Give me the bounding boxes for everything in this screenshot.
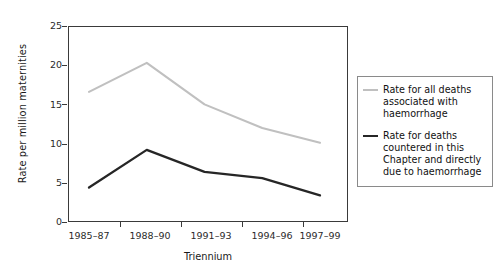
y-tick-mark [62,183,67,184]
y-tick-label: 10 [40,139,62,149]
y-tick-mark [62,104,67,105]
y-axis-title: Rate per million maternities [17,29,28,199]
legend-swatch-light-icon [363,89,378,91]
legend: Rate for all deaths associated with haem… [357,76,493,187]
legend-entry-label: Rate for all deaths associated with haem… [383,84,486,121]
y-tick-mark [62,144,67,145]
x-tick-mark [303,222,304,227]
x-tick-label: 1991–93 [176,230,246,241]
x-tick-label: 1985–87 [54,230,124,241]
x-axis-title: Triennium [68,251,348,262]
y-tick-label: 0 [40,217,62,227]
x-tick-label: 1988–90 [115,230,185,241]
y-tick-mark [62,65,67,66]
legend-entry: Rate for all deaths associated with haem… [363,84,486,121]
legend-swatch-dark-icon [363,135,378,137]
x-tick-mark [181,222,182,227]
y-tick-mark [62,26,67,27]
x-tick-label: 1997–99 [285,230,355,241]
x-tick-mark [120,222,121,227]
x-tick-mark [242,222,243,227]
legend-entry: Rate for deaths countered in this Chapte… [363,130,486,179]
plot-area [68,26,348,222]
y-tick-label: 25 [40,21,62,31]
y-tick-label: 15 [40,100,62,110]
y-tick-label: 20 [40,60,62,70]
y-tick-mark [62,222,67,223]
legend-entry-label: Rate for deaths countered in this Chapte… [383,130,486,179]
chart-figure: 0 5 10 15 20 25 Rate per million materni… [0,0,500,275]
y-tick-label: 5 [40,178,62,188]
